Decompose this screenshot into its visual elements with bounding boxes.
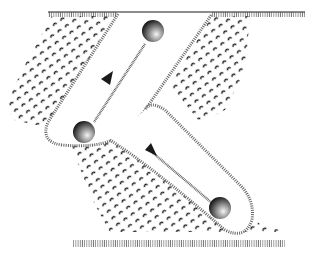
bottom-ground-line xyxy=(73,240,285,247)
chute-diagram xyxy=(0,0,311,255)
diagram-canvas xyxy=(0,0,311,255)
ball-bottom xyxy=(209,197,231,219)
ball-top xyxy=(142,20,164,42)
ball-middle xyxy=(73,121,95,143)
